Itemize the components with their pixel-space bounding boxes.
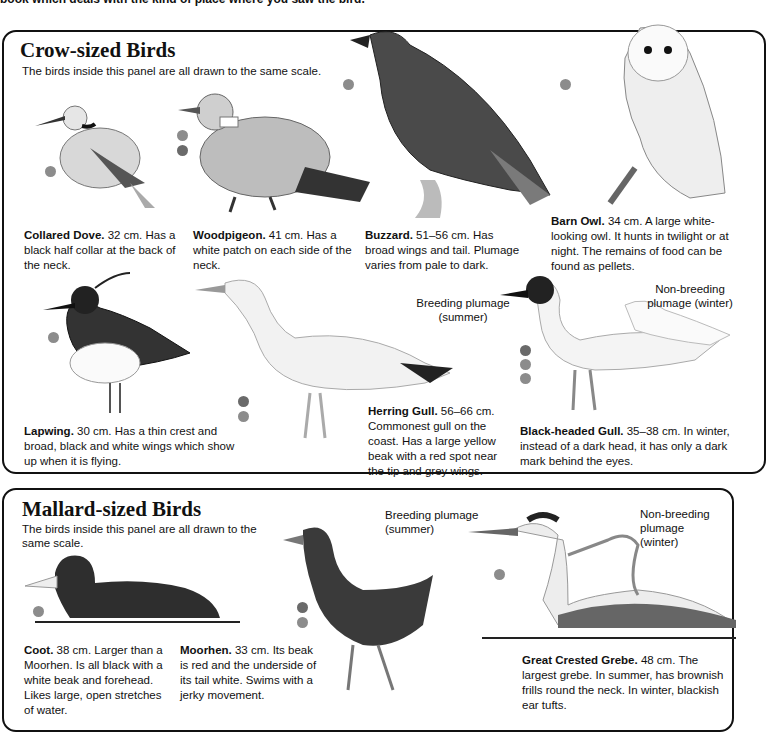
mallard-panel-subtitle: The birds inside this panel are all draw…: [22, 522, 262, 550]
dot-marker: [343, 79, 354, 90]
dot-marker: [238, 411, 249, 422]
crow-panel-subtitle: The birds inside this panel are all draw…: [22, 64, 321, 78]
crow-panel-title: Crow-sized Birds: [20, 38, 175, 63]
barn-owl-illustration: [580, 18, 730, 208]
collared-dove-illustration: [30, 88, 160, 213]
caption-black-headed-gull: Black-headed Gull. 35–38 cm. In winter, …: [520, 424, 735, 469]
gull-breeding-label: Breeding plumage (summer): [408, 296, 518, 324]
intro-text: book which deals with the kind of place …: [0, 0, 736, 6]
caption-herring-gull: Herring Gull. 56–66 cm. Commonest gull o…: [368, 404, 503, 479]
grebe-nonbreeding-label: Non-breeding plumage (winter): [640, 507, 720, 549]
dot-marker: [177, 145, 188, 156]
caption-coot: Coot. 38 cm. Larger than a Moorhen. Is a…: [24, 643, 164, 718]
dot-marker: [520, 345, 531, 356]
caption-barn-owl: Barn Owl. 34 cm. A large white-looking o…: [551, 214, 736, 274]
dot-marker: [177, 130, 188, 141]
caption-great-crested-grebe: Great Crested Grebe. 48 cm. The largest …: [522, 653, 732, 713]
dot-marker: [297, 602, 308, 613]
grebe-breeding-label: Breeding plumage (summer): [385, 508, 485, 536]
caption-buzzard: Buzzard. 51–56 cm. Has broad wings and t…: [365, 228, 525, 273]
caption-lapwing: Lapwing. 30 cm. Has a thin crest and bro…: [24, 424, 239, 469]
gull-nonbreeding-label: Non-breeding plumage (winter): [640, 282, 740, 310]
dot-marker: [297, 617, 308, 628]
dot-marker: [33, 606, 44, 617]
dot-marker: [520, 359, 531, 370]
water-line: [35, 621, 240, 623]
caption-woodpigeon: Woodpigeon. 41 cm. Has a white patch on …: [193, 228, 353, 273]
lapwing-illustration: [40, 268, 200, 423]
buzzard-illustration: [340, 20, 555, 220]
dot-marker: [520, 373, 531, 384]
caption-collared-dove: Collared Dove. 32 cm. Has a black half c…: [24, 228, 184, 273]
dot-marker: [238, 396, 249, 407]
water-line: [482, 637, 736, 639]
mallard-panel-title: Mallard-sized Birds: [22, 497, 201, 522]
dot-marker: [45, 166, 56, 177]
coot-illustration: [25, 548, 225, 623]
dot-marker: [560, 79, 571, 90]
dot-marker: [48, 332, 59, 343]
caption-moorhen: Moorhen. 33 cm. Its beak is red and the …: [180, 643, 320, 703]
